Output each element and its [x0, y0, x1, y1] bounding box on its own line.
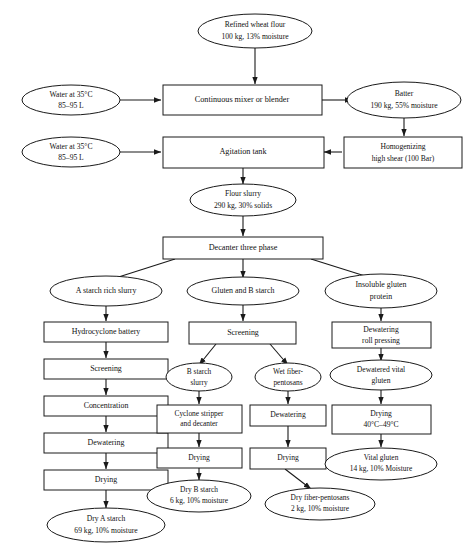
edge-screening-to-b-slurry: [199, 344, 216, 365]
water-second-line2: 85–95 L: [58, 153, 84, 162]
flour-slurry-line2: 290 kg, 30% solids: [214, 201, 272, 210]
a-starch-rich-slurry-label: A starch rich slurry: [76, 286, 137, 295]
dry-b-starch-line1: Dry B starch: [180, 485, 218, 494]
node-flour-slurry[interactable]: Flour slurry 290 kg, 30% solids: [190, 184, 296, 216]
flour-slurry-line1: Flour slurry: [225, 189, 261, 198]
homogenizing-line1: Homogenizing: [380, 142, 425, 151]
refined-wheat-flour-line2: 100 kg, 13% moisture: [221, 32, 289, 41]
drying-mid-right-label: Drying: [277, 453, 299, 462]
b-starch-slurry-line1: B starch: [187, 367, 212, 376]
node-vital-gluten[interactable]: Vital gluten 14 kg, 10% Moisture: [325, 448, 437, 480]
node-dry-a-starch[interactable]: Dry A starch 69 kg, 10% moisture: [47, 508, 165, 542]
node-water-second[interactable]: Water at 35°C 85–95 L: [22, 137, 120, 167]
node-screening-left[interactable]: Screening: [44, 359, 168, 379]
node-insoluble-gluten[interactable]: Insoluble gluten protein: [325, 274, 437, 308]
water-second-line1: Water at 35°C: [50, 142, 93, 151]
process-flow-diagram: Refined wheat flour 100 kg, 13% moisture…: [0, 0, 466, 555]
drying-right-line1: Drying: [370, 409, 392, 418]
node-wet-fiber-pentosans[interactable]: Wet fiber- pentosans: [255, 363, 321, 391]
dewatering-left-label: Dewatering: [88, 438, 125, 447]
dewatered-vital-line2: gluten: [372, 376, 391, 385]
vital-gluten-line2: 14 kg, 10% Moisture: [350, 464, 413, 473]
node-hydrocyclone-battery[interactable]: Hydrocyclone battery: [44, 322, 168, 342]
dewatering-mid-label: Dewatering: [270, 410, 306, 419]
screening-left-label: Screening: [90, 364, 122, 373]
homogenizing-line2: high shear (100 Bar): [372, 154, 435, 163]
node-batter[interactable]: Batter 190 kg, 55% moisture: [347, 82, 461, 118]
cyclone-stripper-line2: and decanter: [180, 419, 218, 428]
agitation-tank-label: Agitation tank: [219, 147, 267, 156]
node-drying-left[interactable]: Drying: [44, 470, 168, 490]
batter-line2: 190 kg, 55% moisture: [370, 101, 438, 110]
dry-a-starch-line2: 69 kg, 10% moisture: [74, 526, 138, 535]
edge-drying-to-dry-fiber: [285, 469, 311, 489]
wet-fiber-pentosans-line1: Wet fiber-: [273, 367, 303, 376]
dewatering-roll-line2: roll pressing: [362, 336, 400, 345]
cyclone-stripper-line1: Cyclone stripper: [174, 409, 224, 418]
node-continuous-mixer[interactable]: Continuous mixer or blender: [163, 85, 322, 115]
decanter-label: Decanter three phase: [209, 243, 278, 252]
dry-b-starch-line2: 6 kg, 10% moisture: [170, 496, 229, 505]
dewatered-vital-line1: Dewatered vital: [357, 365, 405, 374]
water-top-line2: 85–95 L: [58, 101, 84, 110]
node-decanter-three-phase[interactable]: Decanter three phase: [163, 237, 323, 259]
insoluble-gluten-line1: Insoluble gluten: [355, 280, 406, 289]
continuous-mixer-label: Continuous mixer or blender: [195, 95, 290, 104]
node-concentration[interactable]: Concentration: [44, 396, 168, 416]
batter-line1: Batter: [395, 89, 414, 98]
node-dewatering-roll[interactable]: Dewatering roll pressing: [332, 322, 431, 348]
dry-fiber-pentosans-line2: 2 kg, 10% moisture: [291, 504, 350, 513]
gluten-and-b-starch-label: Gluten and B starch: [212, 286, 275, 295]
node-agitation-tank[interactable]: Agitation tank: [163, 137, 324, 168]
node-screening-mid[interactable]: Screening: [189, 322, 296, 344]
drying-mid-left-label: Drying: [188, 453, 210, 462]
node-drying-mid-left[interactable]: Drying: [157, 448, 242, 468]
node-water-top[interactable]: Water at 35°C 85–95 L: [22, 85, 120, 115]
node-drying-right[interactable]: Drying 40°C–49°C: [332, 405, 431, 434]
water-top-line1: Water at 35°C: [50, 90, 93, 99]
node-dry-fiber-pentosans[interactable]: Dry fiber-pentosans 2 kg, 10% moisture: [265, 488, 375, 520]
node-cyclone-stripper[interactable]: Cyclone stripper and decanter: [157, 405, 242, 433]
vital-gluten-line1: Vital gluten: [364, 453, 399, 462]
drying-left-label: Drying: [95, 475, 117, 484]
node-dewatered-vital-gluten[interactable]: Dewatered vital gluten: [330, 360, 432, 390]
wet-fiber-pentosans-line2: pentosans: [273, 378, 302, 387]
node-drying-mid-right[interactable]: Drying: [250, 448, 326, 469]
screening-mid-label: Screening: [227, 328, 259, 337]
node-refined-wheat-flour[interactable]: Refined wheat flour 100 kg, 13% moisture: [198, 14, 312, 48]
node-homogenizing[interactable]: Homogenizing high shear (100 Bar): [344, 137, 462, 168]
dry-a-starch-line1: Dry A starch: [87, 514, 126, 523]
node-a-starch-rich-slurry[interactable]: A starch rich slurry: [50, 276, 162, 306]
drying-right-line2: 40°C–49°C: [363, 420, 398, 429]
edge-screening-to-wet-fiber: [270, 344, 288, 365]
b-starch-slurry-line2: slurry: [190, 378, 208, 387]
node-gluten-and-b-starch[interactable]: Gluten and B starch: [187, 277, 299, 305]
dry-fiber-pentosans-line1: Dry fiber-pentosans: [291, 493, 350, 502]
node-dewatering-left[interactable]: Dewatering: [44, 433, 168, 453]
dewatering-roll-line1: Dewatering: [363, 325, 399, 334]
node-dry-b-starch[interactable]: Dry B starch 6 kg, 10% moisture: [147, 480, 251, 512]
concentration-label: Concentration: [84, 401, 129, 410]
insoluble-gluten-line2: protein: [370, 292, 392, 301]
refined-wheat-flour-line1: Refined wheat flour: [225, 20, 286, 29]
node-dewatering-mid[interactable]: Dewatering: [250, 405, 326, 426]
hydrocyclone-battery-label: Hydrocyclone battery: [72, 327, 141, 336]
node-b-starch-slurry[interactable]: B starch slurry: [166, 363, 232, 391]
